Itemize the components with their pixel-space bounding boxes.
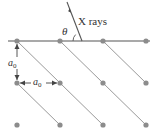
diagonal-plane-line [103, 41, 146, 83]
diagram-canvas: θ X rays a0 a0 [0, 0, 158, 135]
angle-theta-label: θ [62, 25, 68, 37]
lattice-point [100, 122, 105, 127]
lattice-point [100, 38, 105, 43]
lattice-point [143, 80, 148, 85]
lattice-point [14, 122, 19, 127]
diffraction-diagram: θ X rays a0 a0 [0, 0, 158, 135]
diagonal-plane-line [17, 83, 60, 125]
vertical-spacing-label: a0 [8, 57, 17, 70]
lattice-point [143, 38, 148, 43]
angle-arc [73, 35, 76, 41]
lattice-point [57, 122, 62, 127]
lattice-point [57, 38, 62, 43]
lattice-point [100, 80, 105, 85]
horizontal-spacing-label: a0 [33, 76, 42, 89]
lattice-point [14, 80, 19, 85]
lattice-point [14, 38, 19, 43]
lattice-point [143, 122, 148, 127]
lattice-point [57, 80, 62, 85]
xray-label: X rays [78, 15, 107, 27]
